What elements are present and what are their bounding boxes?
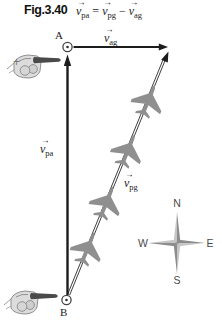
point-a-label: A [55,29,63,41]
vector-arrow-icon: → [125,169,133,179]
minus-sign: − [116,4,129,18]
vector-diagram: N E S W [0,0,222,324]
compass-south-label: S [173,274,180,286]
equation-vpa-term: →vpa [76,4,89,20]
figure-label: Fig.3.40 [24,3,67,17]
compass-rose-icon: N E S W [138,197,213,286]
compass-north-label: N [173,197,181,209]
airplane-icon [107,128,150,172]
vector-vpa-arrowhead [64,55,71,67]
pointing-hand-icon [4,291,58,314]
figure-3-40: N E S W Fig.3.40 →vpa=→vpg−→vag →vag →vp… [0,0,222,324]
equation-vpg-term: →vpg [102,4,116,20]
equals-sign: = [89,4,102,18]
point-b-marker [62,295,71,304]
vpg-label: →vpg [124,176,138,192]
vpa-label: →vpa [40,142,53,158]
plus-mark: + [13,55,20,69]
vector-equation: →vpa=→vpg−→vag [76,4,142,20]
point-a-marker [63,42,72,51]
airplane-icon [66,226,109,270]
vector-arrow-icon: → [77,0,85,7]
vector-arrow-icon: → [41,135,49,145]
vector-vpa-line [64,55,71,296]
vector-arrow-icon: → [130,0,138,7]
vector-vag-line [74,44,169,51]
compass-west-label: W [138,237,148,249]
compass-east-label: E [206,237,213,249]
vector-vag-arrowhead [159,44,168,51]
point-b-label: B [60,306,67,318]
airplane-icon [127,78,170,122]
vector-arrow-icon: → [103,0,111,7]
vector-arrow-icon: → [105,24,113,34]
airplane-icon [85,180,128,224]
equation-vag-term: →vag [129,4,142,20]
vag-label: →vag [104,31,117,47]
